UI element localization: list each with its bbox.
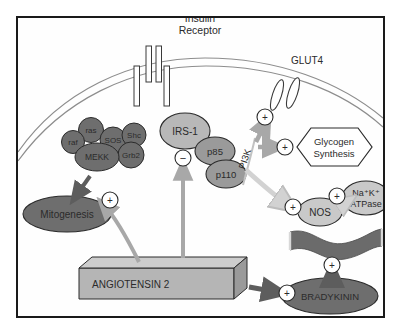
sign-plus-glut4-label: + (262, 112, 268, 123)
node-mitogenesis-label: Mitogenesis (40, 209, 93, 220)
glycogen-synthesis-node[interactable]: Glycogen Synthesis (297, 128, 372, 166)
sign-plus-bradykinin-label: + (284, 288, 290, 299)
pathway-figure: Insulin Receptor GLUT4 (0, 0, 401, 336)
sign-plus-mitogenesis-label: + (107, 195, 113, 206)
sign-plus-atpase-label: + (334, 191, 340, 202)
sign-plus-nos: + (285, 199, 301, 215)
angiotensin2-label: ANGIOTENSIN 2 (92, 279, 170, 290)
arrow-ang2-to-bradykinin (249, 287, 277, 292)
sign-plus-nos-label: + (290, 202, 296, 213)
glut4-transporter[interactable] (268, 76, 302, 111)
node-shc-label: Shc (127, 131, 141, 140)
sign-minus-irs1-label: − (180, 152, 186, 164)
mapk-cluster[interactable]: ras raf SOS Shc Grb2 MEKK (62, 118, 147, 172)
arrow-ang2-to-mitogenesis (104, 205, 139, 262)
sign-plus-bradykinin: + (279, 285, 295, 301)
node-irs1-label: IRS-1 (172, 126, 198, 137)
sign-minus-irs1: − (175, 150, 191, 166)
sign-plus-mitogenesis: + (102, 192, 118, 208)
node-grb2-label: Grb2 (122, 151, 140, 160)
sign-plus-glut4: + (257, 109, 273, 125)
atpase-line2: ATPase (350, 199, 381, 209)
sign-plus-vessel: + (324, 257, 340, 273)
atpase-line1: Na⁺K⁺ (352, 188, 380, 198)
sign-plus-glycogen-label: + (282, 142, 288, 153)
insulin-receptor[interactable] (134, 46, 170, 106)
node-atpase[interactable]: Na⁺K⁺ ATPase (342, 181, 390, 215)
glycogen-line1: Glycogen (314, 136, 354, 147)
arrow-mekk-to-mitogenesis (76, 176, 90, 196)
pathway-canvas: Insulin Receptor GLUT4 (0, 0, 401, 336)
receptor-title-line1: Insulin (185, 12, 216, 24)
node-p85-label: p85 (207, 146, 223, 157)
node-ras-label: ras (85, 126, 96, 135)
node-nos-label: NOS (309, 207, 331, 218)
receptor-title-line2: Receptor (179, 24, 222, 36)
arrow-pi3k-to-nos (246, 170, 288, 205)
sign-plus-glycogen: + (277, 139, 293, 155)
node-mekk-label: MEKK (85, 152, 109, 162)
node-sos-label: SOS (105, 136, 122, 145)
node-angiotensin2[interactable]: ANGIOTENSIN 2 (79, 257, 247, 299)
node-p110-label: p110 (216, 169, 236, 180)
sign-plus-vessel-label: + (329, 260, 335, 271)
sign-plus-atpase: + (329, 188, 345, 204)
glut4-label: GLUT4 (291, 55, 324, 66)
blood-vessel (290, 229, 382, 260)
node-raf-label: raf (68, 138, 78, 147)
node-bradykinin-label: BRADYKININ (301, 291, 359, 302)
glycogen-line2: Synthesis (313, 148, 354, 159)
